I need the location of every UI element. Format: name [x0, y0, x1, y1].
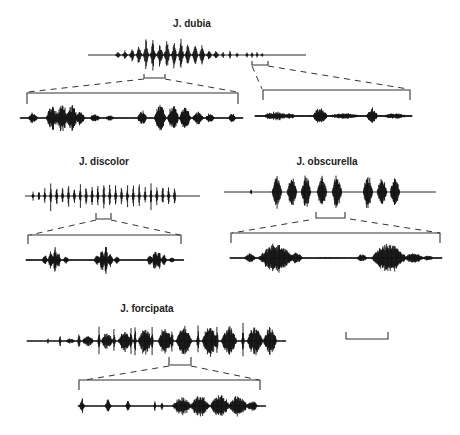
waveform-trace [20, 105, 243, 131]
panel-forcipata: J. forcipata [27, 303, 286, 417]
waveform-forcipata-main [27, 323, 286, 357]
zoom-connector-dubia-1b [165, 79, 237, 92]
species-label-dubia: J. dubia [173, 18, 211, 29]
zoom-connector-obscurella-b [350, 219, 440, 233]
zoom-connector-dubia-1a [28, 79, 144, 92]
panel-obscurella: J. obscurella [224, 156, 442, 273]
zoom-connector-discolor-b [111, 220, 180, 235]
zoom-connector-forcipata-b [191, 366, 259, 380]
scale-bar [346, 332, 388, 339]
waveform-dubia-detail-2 [255, 107, 412, 123]
species-label-forcipata: J. forcipata [120, 303, 174, 314]
detail-bracket-dubia-2 [263, 90, 410, 100]
zoom-connector-obscurella-a [232, 220, 309, 233]
waveform-forcipata-detail-1 [78, 395, 266, 416]
species-label-discolor: J. discolor [79, 156, 129, 167]
oscillogram-figure: J. dubia J. discolor J. obscurella J. fo… [0, 0, 460, 435]
zoom-connector-discolor-a [30, 220, 96, 235]
waveform-trace [88, 39, 306, 71]
zoom-bracket-dubia-1 [144, 74, 165, 78]
waveform-discolor-main [25, 183, 200, 211]
detail-bracket-discolor [28, 235, 181, 244]
zoom-bracket-dubia-2 [252, 61, 268, 65]
zoom-bracket-forcipata [169, 357, 191, 365]
waveform-trace [230, 244, 442, 273]
waveform-obscurella-detail-1 [230, 244, 442, 273]
zoom-connector-dubia-2a [252, 66, 262, 89]
waveform-trace [27, 323, 286, 357]
waveform-trace [26, 247, 184, 274]
waveform-trace [78, 395, 266, 416]
panel-discolor: J. discolor [25, 156, 200, 274]
waveform-trace [224, 176, 436, 209]
detail-bracket-dubia-1 [27, 93, 238, 104]
waveform-trace [25, 183, 200, 211]
waveform-dubia-detail-1 [20, 105, 243, 131]
waveform-discolor-detail-1 [26, 247, 184, 274]
waveform-dubia-main [88, 39, 306, 71]
species-label-obscurella: J. obscurella [296, 156, 358, 167]
zoom-connector-forcipata-a [85, 366, 169, 380]
detail-bracket-obscurella [231, 233, 440, 243]
panel-dubia: J. dubia [20, 18, 412, 131]
detail-bracket-forcipata [79, 380, 260, 390]
waveform-trace [255, 107, 412, 123]
zoom-bracket-discolor [96, 213, 111, 219]
zoom-bracket-obscurella [316, 212, 345, 218]
waveform-obscurella-main [224, 176, 436, 209]
zoom-connector-dubia-2b [268, 66, 408, 89]
